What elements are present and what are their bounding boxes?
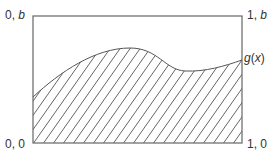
label-paren-close: ) — [261, 51, 265, 65]
label-fn-name: g — [244, 51, 251, 65]
hatch-line — [4, 16, 93, 143]
diagram-svg — [0, 0, 275, 159]
hatch-line — [174, 16, 263, 143]
hatch-line — [194, 16, 275, 143]
hatch-line — [34, 16, 123, 143]
hatch-line — [94, 16, 183, 143]
hatch-line — [44, 16, 133, 143]
hatch-line — [244, 16, 275, 143]
hatch-line — [144, 16, 233, 143]
hatch-line — [154, 16, 243, 143]
label-bottom-right: 1, 0 — [247, 138, 267, 150]
hatch-line — [84, 16, 173, 143]
label-top-right-var: b — [260, 8, 267, 22]
label-bottom-left: 0, 0 — [5, 138, 25, 150]
label-top-right-coord: 1, — [247, 8, 260, 22]
hatch-line — [164, 16, 253, 143]
hatch-line — [14, 16, 103, 143]
hatch-line — [104, 16, 193, 143]
hatch-line — [234, 16, 275, 143]
hatch-line — [54, 16, 143, 143]
hatch-line — [0, 16, 53, 143]
label-top-left: 0, b — [5, 9, 25, 21]
hatch-line — [24, 16, 113, 143]
hatch-line — [184, 16, 273, 143]
hatch-line — [124, 16, 213, 143]
hatch-line — [114, 16, 203, 143]
hatched-area — [0, 16, 275, 143]
hatch-line — [0, 16, 83, 143]
label-top-left-coord: 0, — [5, 8, 18, 22]
diagram-canvas: 0, b 1, b g(x) 0, 0 1, 0 — [0, 0, 275, 159]
hatch-line — [224, 16, 275, 143]
hatch-line — [0, 16, 33, 143]
hatch-line — [64, 16, 153, 143]
hatch-line — [134, 16, 223, 143]
label-g-of-x: g(x) — [244, 52, 265, 64]
hatch-line — [74, 16, 163, 143]
label-top-right: 1, b — [247, 9, 267, 21]
hatch-line — [214, 16, 275, 143]
hatch-line — [204, 16, 275, 143]
label-top-left-var: b — [18, 8, 25, 22]
